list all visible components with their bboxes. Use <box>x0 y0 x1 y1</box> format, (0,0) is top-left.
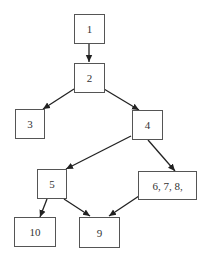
node-6-7-8: 6, 7, 8, <box>138 171 197 200</box>
node-label: 3 <box>27 118 33 130</box>
flow-diagram: 1 2 3 4 5 6, 7, 8, 10 9 <box>0 0 209 260</box>
edge-arrow <box>66 136 131 169</box>
node-label: 10 <box>30 226 41 238</box>
edge-arrow <box>104 89 139 110</box>
edge-arrow <box>43 89 74 109</box>
node-label: 2 <box>87 72 93 84</box>
node-3: 3 <box>15 109 45 139</box>
edge-arrow <box>109 196 139 216</box>
node-label: 5 <box>49 178 55 190</box>
node-label: 9 <box>97 227 103 239</box>
node-label: 1 <box>87 23 93 35</box>
node-9: 9 <box>79 217 120 248</box>
node-label: 6, 7, 8, <box>152 180 182 192</box>
edge-arrow <box>148 140 175 171</box>
node-1: 1 <box>74 14 105 44</box>
node-10: 10 <box>14 217 56 247</box>
node-4: 4 <box>132 110 163 140</box>
node-5: 5 <box>37 169 67 199</box>
edge-arrow <box>40 199 47 217</box>
node-2: 2 <box>74 63 105 93</box>
node-label: 4 <box>145 119 151 131</box>
edge-arrow <box>64 199 90 216</box>
